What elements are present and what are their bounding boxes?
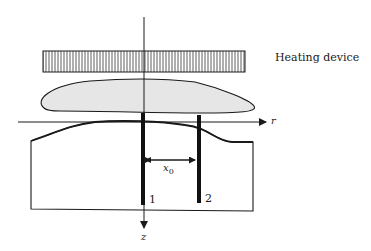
z-axis-label: z xyxy=(141,231,146,242)
probe-1 xyxy=(141,113,145,205)
probe-2 xyxy=(197,115,201,203)
r-axis-label: r xyxy=(271,115,276,126)
distance-label: x0 xyxy=(163,162,174,176)
probe-2-label: 2 xyxy=(205,192,212,205)
diagram-canvas xyxy=(0,0,371,251)
heat-plume xyxy=(41,79,254,113)
probe-1-label: 1 xyxy=(149,193,156,206)
heating-device-label: Heating device xyxy=(275,51,359,64)
